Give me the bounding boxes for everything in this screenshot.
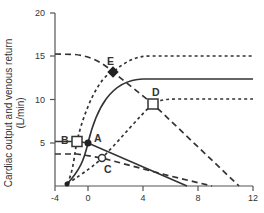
chart: 20 15 10 5 -4 0 4 8 12 Cardiac output an…: [0, 0, 264, 213]
x-tick-0: 0: [85, 193, 90, 203]
origin-point-marker: [65, 182, 70, 187]
x-tick-12: 12: [248, 193, 258, 203]
point-B-label: B: [61, 134, 69, 146]
x-tick-4: 4: [140, 193, 145, 203]
y-axis-label: Cardiac output and venous return: [3, 39, 14, 187]
point-C-label: C: [104, 163, 112, 175]
y-axis-unit: (L/min): [15, 97, 26, 128]
point-B-marker: [72, 137, 82, 147]
point-C-marker: [99, 155, 106, 162]
y-tick-20: 20: [35, 8, 45, 18]
point-E-label: E: [107, 55, 114, 67]
point-D-label: D: [152, 86, 160, 98]
x-tick-neg4: -4: [51, 193, 59, 203]
point-A-marker: [85, 140, 92, 147]
y-tick-5: 5: [40, 138, 45, 148]
x-tick-8: 8: [195, 193, 200, 203]
point-A-label: A: [94, 132, 102, 144]
y-tick-15: 15: [35, 51, 45, 61]
point-D-marker: [148, 99, 158, 109]
y-tick-10: 10: [35, 95, 45, 105]
point-E-marker: [107, 66, 118, 77]
